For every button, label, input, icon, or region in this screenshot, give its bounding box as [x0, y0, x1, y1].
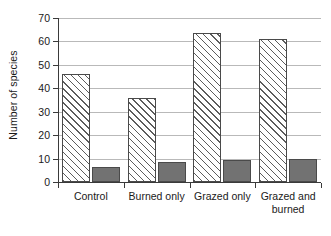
y-axis-tick-label: 70: [26, 13, 50, 23]
bar: [193, 33, 221, 182]
bar: [223, 160, 251, 182]
bar: [259, 39, 287, 182]
bar-chart-figure: Number of species 010203040506070 Contro…: [0, 0, 331, 236]
y-axis-tick-mark: [53, 18, 59, 19]
y-axis-tick-label: 60: [26, 36, 50, 46]
x-axis-category-labels: ControlBurned onlyGrazed onlyGrazed andb…: [58, 190, 321, 232]
y-axis-tick-label: 0: [26, 177, 50, 187]
x-axis-category-label: Grazed only: [190, 190, 256, 203]
x-axis-category-label-line: Burned only: [124, 190, 190, 203]
y-axis-tick-label: 10: [26, 154, 50, 164]
y-axis-tick-mark: [53, 112, 59, 113]
y-axis-tick-mark: [53, 88, 59, 89]
x-axis-category-label-line: Control: [58, 190, 124, 203]
x-axis-category-label: Burned only: [124, 190, 190, 203]
y-axis-tick-label: 50: [26, 60, 50, 70]
y-axis-tick-mark: [53, 65, 59, 66]
x-axis-category-label: Grazed andburned: [255, 190, 321, 215]
plot-area: [58, 18, 321, 182]
y-axis-tick-label: 30: [26, 107, 50, 117]
x-axis-tick-mark: [190, 183, 191, 188]
y-axis-title: Number of species: [2, 0, 24, 190]
gridline: [58, 18, 321, 19]
x-axis-end-tick-mark: [321, 183, 322, 188]
y-axis-title-text: Number of species: [7, 50, 19, 139]
x-axis-end-tick-mark: [58, 183, 59, 188]
y-axis-tick-labels: 010203040506070: [26, 0, 50, 236]
bar: [62, 74, 90, 182]
bar: [128, 98, 156, 182]
x-axis-tick-mark: [124, 183, 125, 188]
y-axis-tick-label: 20: [26, 130, 50, 140]
x-axis-category-label-line: burned: [255, 203, 321, 216]
bar: [92, 167, 120, 182]
x-axis-category-label-line: Grazed only: [190, 190, 256, 203]
bar: [289, 159, 317, 182]
x-axis-category-label: Control: [58, 190, 124, 203]
y-axis-tick-mark: [53, 159, 59, 160]
y-axis-tick-label: 40: [26, 83, 50, 93]
x-axis-tick-mark: [255, 183, 256, 188]
y-axis-tick-mark: [53, 135, 59, 136]
y-axis-tick-mark: [53, 41, 59, 42]
bar: [158, 162, 186, 182]
x-axis-category-label-line: Grazed and: [255, 190, 321, 203]
